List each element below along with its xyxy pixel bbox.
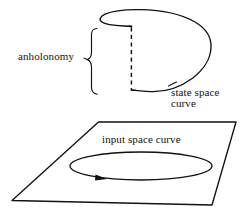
label-input-space-curve: input space curve bbox=[102, 133, 181, 146]
label-anholonomy: anholonomy bbox=[18, 50, 74, 63]
state-space-open-loop bbox=[100, 10, 211, 92]
anholonomy-figure: anholonomy state space curve input space… bbox=[0, 0, 243, 221]
input-space-closed-loop bbox=[70, 152, 212, 180]
curly-brace bbox=[84, 29, 97, 95]
label-state-space-curve-line2: curve bbox=[171, 97, 196, 110]
figure-canvas bbox=[0, 0, 243, 221]
